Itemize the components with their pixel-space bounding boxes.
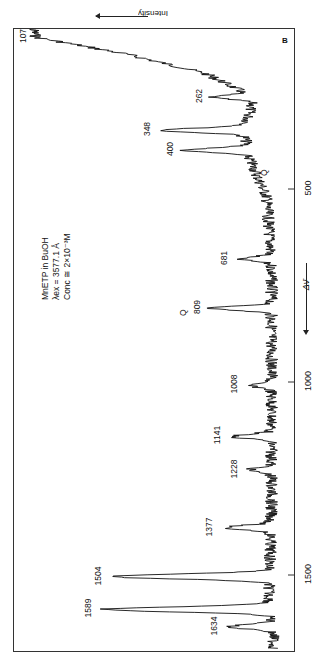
sample-info-line3: Conc ≅ 2×10⁻³M [62, 233, 73, 300]
peak-label-400: 400 [165, 139, 175, 159]
intensity-arrow-icon [96, 16, 148, 17]
peak-label-809: 809 [192, 297, 202, 317]
peak-label-107: 107 [18, 26, 28, 46]
sample-info: MnETP in BuOH λex = 3577.1 Å Conc ≅ 2×10… [40, 233, 73, 300]
q-annotation-low: Q [259, 166, 269, 176]
peak-label-1589: 1589 [83, 595, 93, 621]
peak-label-348: 348 [142, 119, 152, 139]
q-annotation-809: Q [178, 306, 188, 316]
spectrum-line [28, 29, 280, 648]
peak-label-1008: 1008 [229, 371, 239, 397]
peak-label-1141: 1141 [212, 422, 222, 448]
tick-label-500: 500 [303, 176, 313, 200]
peak-label-262: 262 [194, 86, 204, 106]
panel-label: B [282, 36, 288, 45]
plot-frame [13, 28, 295, 652]
peak-label-1377: 1377 [204, 514, 214, 540]
peak-label-1634: 1634 [209, 613, 219, 639]
peak-label-1504: 1504 [93, 563, 103, 589]
tick-label-1500: 1500 [303, 560, 313, 588]
delta-nu-arrow-icon [306, 263, 307, 333]
spectrum-trace [14, 29, 296, 653]
sample-info-line1: MnETP in BuOH [40, 233, 51, 300]
peak-label-1228: 1228 [229, 456, 239, 482]
tick-label-1000: 1000 [303, 367, 313, 395]
sample-info-line2: λex = 3577.1 Å [51, 233, 62, 300]
peak-label-681: 681 [219, 248, 229, 268]
